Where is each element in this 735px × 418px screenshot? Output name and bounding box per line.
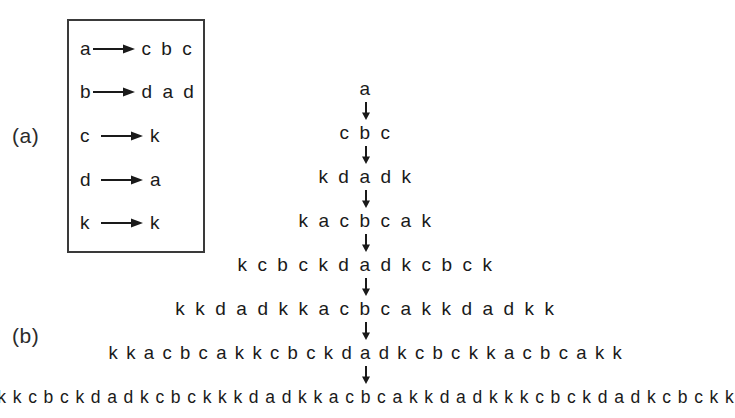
derivation-step: k d a d k [318,166,413,188]
downwards-arrow-icon [358,232,374,254]
downwards-arrow-icon [358,100,374,122]
derivation-step: k k d a d k k a c b c a k k d a d k k [175,298,556,320]
downwards-arrow-icon [358,364,374,386]
downwards-arrow-icon [358,276,374,298]
derivation-step: a [359,78,372,100]
downwards-arrow-icon [358,320,374,342]
production-rule-row: a c b c [80,36,192,62]
rule-lhs-symbol: a [80,38,92,60]
downwards-arrow-icon [358,188,374,210]
downwards-arrow-icon [358,144,374,166]
rightwards-arrow-icon [92,42,136,56]
derivation-step: k k c b c k d a d k c b c k k k d a d k … [0,386,735,408]
derivation-step: c b c [339,122,392,144]
derivation-chain: a c b c k d a d k k a c b c a k k c b c … [0,78,732,408]
derivation-step: k c b c k d a d k c b c k [237,254,494,276]
derivation-step: k a c b c a k [298,210,433,232]
rule-rhs-string: c b c [142,38,195,60]
derivation-step: k k a c b c a k k c b c k d a d k c b c … [109,342,624,364]
